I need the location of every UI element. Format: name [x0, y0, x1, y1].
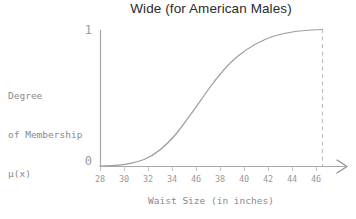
- x-axis-tick-marks: [101, 167, 317, 172]
- x-axis-tick-label: 44: [284, 174, 300, 184]
- x-axis-tick-label: 46: [308, 174, 324, 184]
- plot-area: [0, 0, 356, 219]
- x-axis-tick-label: 28: [92, 174, 108, 184]
- x-axis-tick-label: 30: [116, 174, 132, 184]
- x-axis-tick-label: 34: [164, 174, 180, 184]
- x-axis-title: Waist Size (in inches): [100, 195, 322, 206]
- x-axis-tick-label: 38: [212, 174, 228, 184]
- x-axis-tick-label: 42: [260, 174, 276, 184]
- x-axis-tick-label: 46: [188, 174, 204, 184]
- chart-figure: Wide (for American Males) Degree of Memb…: [0, 0, 356, 219]
- x-axis-tick-label: 40: [236, 174, 252, 184]
- membership-curve: [100, 30, 322, 167]
- x-axis-tick-label: 32: [140, 174, 156, 184]
